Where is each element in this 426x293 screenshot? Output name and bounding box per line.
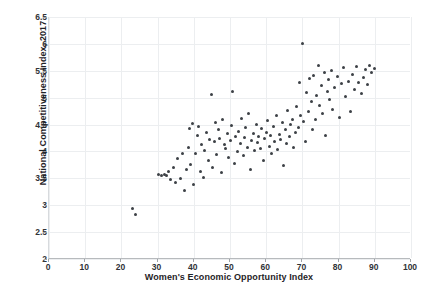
data-point <box>366 83 369 86</box>
data-point <box>373 67 376 70</box>
plot-area <box>48 17 410 259</box>
data-point <box>218 137 221 140</box>
data-point <box>239 142 242 145</box>
y-tick-label: 2.5 <box>3 228 47 236</box>
data-point <box>208 138 211 141</box>
data-point <box>192 183 195 186</box>
data-point <box>230 124 233 127</box>
data-point <box>223 143 226 146</box>
data-point <box>357 81 360 84</box>
x-tick-label: 20 <box>100 263 140 272</box>
data-point <box>197 125 200 128</box>
data-point <box>259 147 262 150</box>
gridline-vertical <box>339 17 340 258</box>
x-tick-label: 10 <box>64 263 104 272</box>
data-point <box>265 131 268 134</box>
data-point <box>320 84 323 87</box>
data-point <box>262 159 265 162</box>
gridline-vertical <box>158 17 159 258</box>
data-point <box>240 117 243 120</box>
data-point <box>270 152 273 155</box>
data-point <box>336 75 339 78</box>
x-tick-label: 70 <box>281 263 321 272</box>
data-point <box>323 71 326 74</box>
data-point <box>342 66 345 69</box>
x-tick-label: 40 <box>173 263 213 272</box>
data-point <box>257 135 260 138</box>
data-point <box>351 73 354 76</box>
x-tick-mark <box>374 259 375 262</box>
gridline-vertical <box>302 17 303 258</box>
data-point <box>167 170 170 173</box>
x-tick-mark <box>84 259 85 262</box>
y-tick-label: 2 <box>3 255 47 263</box>
data-point <box>289 123 292 126</box>
data-point <box>282 164 285 167</box>
x-tick-label: 30 <box>137 263 177 272</box>
data-point <box>179 177 182 180</box>
data-point <box>368 64 371 67</box>
gridline-vertical <box>375 17 376 258</box>
data-point <box>233 162 236 165</box>
gridline-horizontal <box>49 98 410 99</box>
data-point <box>291 118 294 121</box>
data-point <box>196 134 199 137</box>
data-point <box>276 148 279 151</box>
clipped-top-text <box>96 0 296 7</box>
data-point <box>347 80 350 83</box>
data-point <box>200 143 203 146</box>
x-tick-mark <box>157 259 158 262</box>
data-point <box>278 133 281 136</box>
data-point <box>260 127 263 130</box>
data-point <box>176 157 179 160</box>
gridline-horizontal <box>49 178 410 179</box>
gridline-vertical <box>85 17 86 258</box>
gridline-vertical <box>49 17 50 258</box>
data-point <box>272 125 275 128</box>
y-tick-mark <box>44 232 47 233</box>
data-point <box>242 154 245 157</box>
data-point <box>311 128 314 131</box>
data-point <box>338 116 341 119</box>
gridline-horizontal <box>49 71 410 72</box>
data-point <box>301 42 304 45</box>
gridline-horizontal <box>49 44 410 45</box>
data-point <box>292 146 295 149</box>
data-point <box>234 135 237 138</box>
x-tick-mark <box>48 259 49 262</box>
data-point <box>165 174 168 177</box>
data-point <box>333 86 336 89</box>
data-point <box>243 136 246 139</box>
data-point <box>273 140 276 143</box>
gridline-vertical <box>230 17 231 258</box>
data-point <box>297 126 300 129</box>
y-axis-title: National Competitiveness Index, 2017 <box>38 0 48 208</box>
data-point <box>169 178 172 181</box>
x-axis-title: Women's Economic Opportunity Index <box>48 272 410 282</box>
x-tick-mark <box>229 259 230 262</box>
data-point <box>340 82 343 85</box>
data-point <box>279 138 282 141</box>
data-point <box>285 142 288 145</box>
data-point <box>244 126 247 129</box>
data-point <box>217 128 220 131</box>
data-point <box>187 146 190 149</box>
data-point <box>183 189 186 192</box>
data-point <box>307 110 310 113</box>
data-point <box>305 91 308 94</box>
data-point <box>370 71 373 74</box>
data-point <box>188 127 191 130</box>
data-point <box>189 163 192 166</box>
data-point <box>295 105 298 108</box>
data-point <box>268 145 271 148</box>
data-point <box>220 171 223 174</box>
x-tick-label: 50 <box>209 263 249 272</box>
data-point <box>199 170 202 173</box>
data-point <box>237 130 240 133</box>
data-point <box>308 77 311 80</box>
data-point <box>318 104 321 107</box>
data-point <box>321 112 324 115</box>
data-point <box>317 64 320 67</box>
data-point <box>327 78 330 81</box>
data-point <box>231 90 234 93</box>
